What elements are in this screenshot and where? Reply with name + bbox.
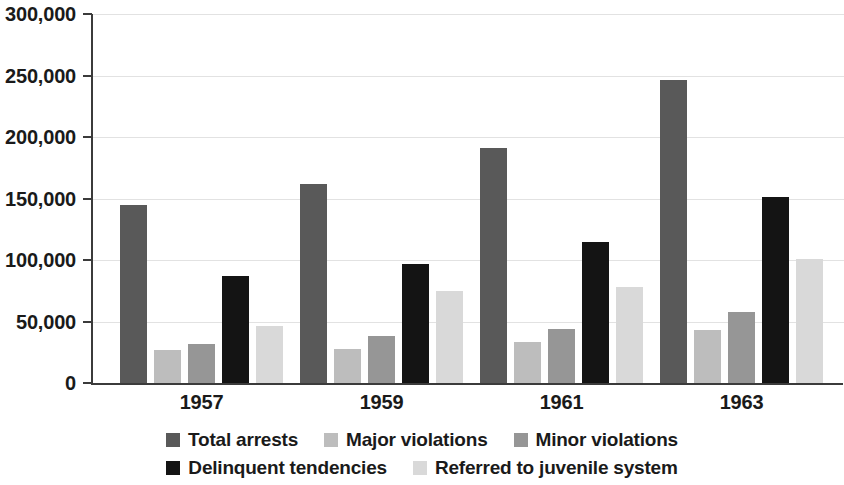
legend-row: Delinquent tendenciesReferred to juvenil… (0, 454, 844, 482)
bar (582, 242, 609, 383)
bar (548, 329, 575, 383)
y-tick-label: 150,000 (5, 187, 76, 210)
legend-item[interactable]: Delinquent tendencies (166, 457, 387, 479)
plot-area (93, 14, 844, 383)
x-axis-line (91, 383, 843, 385)
bar (222, 276, 249, 383)
bar (334, 349, 361, 383)
bar (480, 148, 507, 383)
x-tick-label: 1959 (360, 391, 404, 414)
y-tick-label: 50,000 (16, 310, 76, 333)
legend-swatch-icon (166, 433, 180, 447)
legend-swatch-icon (324, 433, 338, 447)
bar (368, 336, 395, 383)
bar (762, 197, 789, 383)
legend-label: Minor violations (536, 429, 678, 451)
y-tick-label: 250,000 (5, 64, 76, 87)
bar-chart: 050,000100,000150,000200,000250,000300,0… (0, 0, 844, 485)
y-tick-label: 100,000 (5, 249, 76, 272)
legend-label: Delinquent tendencies (188, 457, 387, 479)
legend-item[interactable]: Minor violations (514, 429, 678, 451)
y-tick-label: 0 (65, 372, 76, 395)
bar (514, 342, 541, 383)
bar (436, 291, 463, 383)
bars-layer (93, 14, 844, 383)
bar (300, 184, 327, 383)
y-tick-label: 300,000 (5, 3, 76, 26)
x-tick-label: 1957 (180, 391, 224, 414)
legend-item[interactable]: Total arrests (166, 429, 298, 451)
legend-item[interactable]: Referred to juvenile system (413, 457, 678, 479)
bar (154, 350, 181, 383)
x-axis-labels: 1957195919611963 (93, 387, 844, 421)
legend-label: Referred to juvenile system (435, 457, 678, 479)
legend-row: Total arrestsMajor violationsMinor viola… (0, 426, 844, 454)
x-tick-label: 1961 (540, 391, 584, 414)
bar (256, 326, 283, 383)
bar (660, 80, 687, 383)
y-axis: 050,000100,000150,000200,000250,000300,0… (0, 0, 92, 392)
bar (188, 344, 215, 383)
bar (120, 205, 147, 383)
legend-item[interactable]: Major violations (324, 429, 487, 451)
legend-label: Total arrests (188, 429, 298, 451)
legend-label: Major violations (346, 429, 487, 451)
y-tick-label: 200,000 (5, 126, 76, 149)
legend-swatch-icon (413, 461, 427, 475)
legend-swatch-icon (514, 433, 528, 447)
bar (796, 259, 823, 383)
x-tick-label: 1963 (720, 391, 764, 414)
bar (728, 312, 755, 383)
legend-swatch-icon (166, 461, 180, 475)
chart-legend: Total arrestsMajor violationsMinor viola… (0, 426, 844, 485)
bar (402, 264, 429, 383)
bar (694, 330, 721, 383)
bar (616, 287, 643, 383)
